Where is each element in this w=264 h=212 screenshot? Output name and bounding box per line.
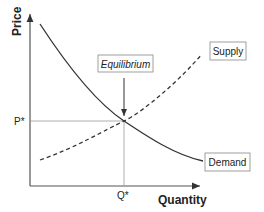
supply-label: Supply	[213, 46, 244, 57]
x-axis-label: Quantity	[158, 193, 207, 207]
demand-curve	[40, 24, 203, 161]
y-axis-label: Price	[10, 6, 24, 36]
q-star-label: Q*	[117, 190, 129, 201]
p-star-label: P*	[14, 116, 25, 127]
supply-demand-diagram: Price Quantity P* Q* Equilibrium Supply …	[0, 0, 264, 212]
equilibrium-label: Equilibrium	[101, 59, 150, 70]
demand-label: Demand	[209, 157, 247, 168]
